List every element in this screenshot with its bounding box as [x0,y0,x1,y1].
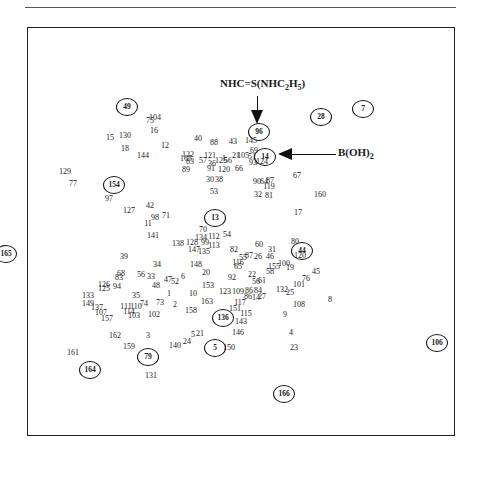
data-point-label: 40 [194,135,202,143]
circled-data-point-label: 49 [116,98,138,116]
data-point-label: 148 [190,261,202,269]
data-point-label: 87 [245,252,253,260]
data-point-label: 10 [189,290,197,298]
data-point-label: 130 [119,132,131,140]
data-point-label: 138 [172,240,184,248]
arrow-left-icon [278,148,292,160]
data-point-label: 102 [148,311,160,319]
data-point-label: 161 [67,349,79,357]
circled-data-point-label: 96 [248,123,270,141]
data-point-label: 18 [121,145,129,153]
arrow-left-line [290,154,336,155]
data-point-label: 60 [255,241,263,249]
data-point-label: 52 [171,278,179,286]
data-point-label: 146 [232,329,244,337]
data-point-label: 58 [266,268,274,276]
data-point-label: 163 [201,298,213,306]
data-point-label: 15 [106,134,114,142]
circled-data-point-label: 7 [352,100,374,118]
data-point-label: 2 [173,301,177,309]
data-point-label: 25 [286,289,294,297]
annotation-thiourea: NHC=S(NHC2H5) [220,77,305,92]
data-point-label: 123 [219,288,231,296]
data-point-label: 103 [128,312,140,320]
data-point-label: 82 [230,246,238,254]
data-point-label: 30 [206,176,214,184]
annotation-boronic-acid: B(OH)2 [338,146,374,161]
data-point-label: 127 [123,207,135,215]
circled-data-point-label: 28 [310,108,332,126]
data-point-label: 125 [98,285,110,293]
data-point-label: 17 [294,209,302,217]
page-header-rule [25,7,456,8]
data-point-label: 91 [207,165,215,173]
data-point-label: 108 [293,301,305,309]
annotation-thiourea-mid: H [289,77,298,89]
data-point-label: 112 [208,233,220,241]
data-point-label: 81 [265,192,273,200]
circled-data-point-label: 154 [103,176,125,194]
data-point-label: 24 [183,338,191,346]
circled-data-point-label: 166 [273,385,295,403]
data-point-label: 19 [286,264,294,272]
data-point-label: 56 [137,271,145,279]
data-point-label: 75 [146,117,154,125]
data-point-label: 65 [234,263,242,271]
data-point-label: 109 [232,288,244,296]
data-point-label: 39 [120,253,128,261]
data-point-label: 74 [140,300,148,308]
data-point-label: 54 [223,231,231,239]
data-point-label: 83 [115,274,123,282]
data-point-label: 67 [293,172,301,180]
data-point-label: 140 [169,342,181,350]
data-point-label: 11 [144,220,152,228]
data-point-label: 144 [137,152,149,160]
data-point-label: 98 [151,214,159,222]
data-point-label: 153 [202,282,214,290]
data-point-label: 97 [105,195,113,203]
data-point-label: 61 [258,277,266,285]
data-point-label: 88 [210,139,218,147]
data-point-label: 8 [328,296,332,304]
data-point-label: 162 [109,332,121,340]
circled-data-point-label: 79 [137,348,159,366]
data-point-label: 27 [258,293,266,301]
data-point-label: 16 [150,127,158,135]
annotation-boronic-sub: 2 [370,152,374,161]
data-point-label: 45 [312,268,320,276]
data-point-label: 5 [191,331,195,339]
data-point-label: 42 [146,202,154,210]
data-point-label: 35 [132,292,140,300]
data-point-label: 21 [196,330,204,338]
data-point-label: 12 [161,142,169,150]
data-point-label: 23 [290,344,298,352]
arrow-down-icon [251,110,263,124]
data-point-label: 129 [59,168,71,176]
data-point-label: 159 [123,343,135,351]
data-point-label: 38 [215,176,223,184]
data-point-label: 101 [293,281,305,289]
data-point-label: 6 [181,273,185,281]
data-point-label: 131 [145,372,157,380]
annotation-thiourea-main: NHC=S(NHC [220,77,285,89]
data-point-label: 48 [152,282,160,290]
data-point-label: 26 [254,253,262,261]
circled-data-point-label: 164 [79,361,101,379]
circled-data-point-label: 136 [212,309,234,327]
data-point-label: 135 [198,248,210,256]
circled-data-point-label: 165 [0,245,17,263]
circled-data-point-label: 13 [204,209,226,227]
data-point-label: 1 [167,290,171,298]
data-point-label: 89 [182,166,190,174]
data-point-label: 92 [228,274,236,282]
data-point-label: 43 [229,138,237,146]
data-point-label: 3 [146,332,150,340]
data-point-label: 157 [101,315,113,323]
data-point-label: 124 [256,158,268,166]
annotation-boronic-main: B(OH) [338,146,370,158]
data-point-label: 77 [69,180,77,188]
data-point-label: 160 [314,191,326,199]
data-point-label: 143 [235,318,247,326]
data-point-label: 158 [185,307,197,315]
data-point-label: 141 [147,232,159,240]
